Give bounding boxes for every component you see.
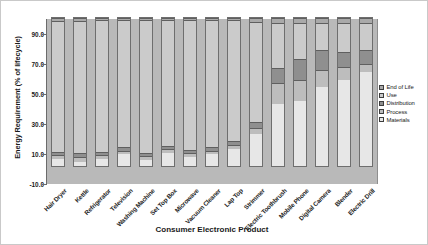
bar-set-top-box[interactable] (161, 17, 175, 167)
bar-segment-materials (250, 134, 262, 166)
bar-segment-materials (74, 162, 86, 166)
bar-segment-materials (96, 159, 108, 166)
bar-electric-toothbrush[interactable] (271, 17, 285, 167)
legend-label: Materials (387, 117, 410, 123)
bar-strimmer[interactable] (249, 17, 263, 167)
chart-legend: End of LifeUseDistributionProcessMateria… (379, 84, 427, 125)
bar-segment-use (272, 23, 284, 67)
legend-item-use[interactable]: Use (379, 92, 427, 98)
bar-television[interactable] (117, 17, 131, 167)
bar-vacuum-cleaner[interactable] (205, 17, 219, 167)
bar-segment-distribution (316, 50, 328, 70)
bar-segment-use (184, 20, 196, 150)
bar-segment-use (96, 20, 108, 151)
bar-segment-use (294, 23, 306, 59)
bar-segment-use (162, 20, 174, 146)
bar-segment-use (338, 23, 350, 51)
bar-segment-use (206, 20, 218, 146)
bar-segment-materials (184, 157, 196, 166)
legend-item-process[interactable]: Process (379, 109, 427, 115)
legend-item-materials[interactable]: Materials (379, 117, 427, 123)
bar-segment-distribution (338, 52, 350, 67)
x-axis-tick-label: Lap Top (223, 187, 244, 208)
y-axis-tick-mark (42, 94, 46, 95)
bar-segment-process (338, 67, 350, 80)
bar-segment-use (250, 22, 262, 122)
bar-segment-process (250, 128, 262, 135)
y-axis-tick-mark (42, 64, 46, 65)
legend-swatch-icon (379, 93, 384, 98)
bar-hair-dryer[interactable] (51, 17, 65, 167)
bar-segment-materials (228, 149, 240, 166)
bar-segment-materials (140, 160, 152, 166)
legend-swatch-icon (379, 101, 384, 106)
bar-segment-use (360, 23, 372, 50)
bar-kettle[interactable] (73, 17, 87, 167)
bar-segment-materials (294, 101, 306, 166)
y-axis-tick-mark (42, 184, 46, 185)
bar-segment-materials (162, 153, 174, 166)
bar-segment-distribution (360, 50, 372, 64)
bar-segment-process (294, 80, 306, 101)
y-axis-tick-mark (42, 34, 46, 35)
bar-segment-process (360, 64, 372, 72)
legend-label: Use (387, 92, 397, 98)
bar-segment-materials (338, 80, 350, 166)
bar-microwave[interactable] (183, 17, 197, 167)
y-axis-tick-mark (42, 154, 46, 155)
legend-label: Process (387, 109, 408, 115)
x-axis-tick-label: Blender (333, 187, 354, 208)
bar-lap-top[interactable] (227, 17, 241, 167)
bar-segment-materials (206, 154, 218, 166)
bar-segment-use (118, 20, 130, 147)
chart-figure: Energy Requirement (% of lifecycle) -10.… (0, 0, 428, 245)
bar-segment-process (272, 83, 284, 104)
x-axis-tick-label: Kettle (73, 187, 90, 204)
bar-blender[interactable] (337, 17, 351, 167)
bar-digital-camera[interactable] (315, 17, 329, 167)
bar-segment-materials (272, 104, 284, 166)
bar-segment-use (228, 20, 240, 141)
bar-segment-distribution (294, 59, 306, 80)
bar-segment-distribution (272, 68, 284, 83)
bar-washing-machine[interactable] (139, 17, 153, 167)
bar-segment-use (316, 23, 328, 50)
legend-item-distribution[interactable]: Distribution (379, 100, 427, 106)
y-axis-tick-labels: -10.010.030.050.070.090.0 (18, 1, 44, 245)
legend-label: Distribution (387, 100, 415, 106)
bar-segment-materials (118, 154, 130, 166)
bar-refrigerator[interactable] (95, 17, 109, 167)
bar-segment-use (52, 21, 64, 152)
bar-segment-materials (316, 87, 328, 166)
bar-segment-materials (52, 159, 64, 166)
legend-label: End of Life (387, 84, 414, 90)
bar-segment-materials (360, 72, 372, 166)
bar-segment-process (316, 70, 328, 87)
legend-item-end-of-life[interactable]: End of Life (379, 84, 427, 90)
x-axis-tick-label: Hair Dryer (43, 187, 68, 212)
bar-mobile-phone[interactable] (293, 17, 307, 167)
bar-segment-use (74, 21, 86, 153)
legend-swatch-icon (379, 117, 384, 122)
bar-electric-drill[interactable] (359, 17, 373, 167)
legend-swatch-icon (379, 85, 384, 90)
x-axis-title: Consumer Electronic Product (47, 225, 377, 234)
y-axis-tick-mark (42, 124, 46, 125)
bar-segment-use (140, 20, 152, 153)
legend-swatch-icon (379, 109, 384, 114)
